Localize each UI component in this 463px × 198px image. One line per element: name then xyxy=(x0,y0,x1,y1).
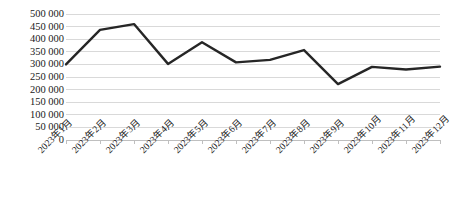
x-axis-tick-label: 2023年5月 xyxy=(172,117,210,155)
x-axis-tick-label: 2023年9月 xyxy=(308,117,346,155)
line-chart: 050 000100 000150 000200 000250 000300 0… xyxy=(0,0,463,198)
x-axis-tick-label: 2023年8月 xyxy=(274,117,312,155)
x-axis-tick-label: 2023年2月 xyxy=(70,117,108,155)
x-axis-tick-label: 2023年6月 xyxy=(206,117,244,155)
x-axis-tick-label: 2023年4月 xyxy=(138,117,176,155)
x-axis-tick-label: 2023年3月 xyxy=(104,117,142,155)
x-axis-tick-label: 2023年1月 xyxy=(36,117,74,155)
x-axis-labels: 2023年1月2023年2月2023年3月2023年4月2023年5月2023年… xyxy=(0,0,463,198)
x-axis-tick-label: 2023年7月 xyxy=(240,117,278,155)
